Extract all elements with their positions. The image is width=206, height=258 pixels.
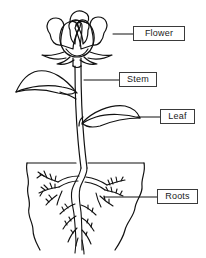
label-flower[interactable]: Flower — [133, 26, 185, 41]
plant-parts-diagram: Flower Stem Leaf Roots — [0, 0, 206, 258]
roots-drawing — [37, 168, 125, 254]
stem-drawing — [75, 66, 87, 168]
label-stem-text: Stem — [127, 75, 149, 84]
label-leaf[interactable]: Leaf — [160, 109, 195, 124]
label-roots[interactable]: Roots — [157, 189, 198, 204]
left-leaf-drawing — [16, 71, 77, 99]
flower-drawing — [42, 11, 112, 67]
leader-lines — [84, 34, 160, 197]
label-leaf-text: Leaf — [168, 112, 186, 121]
right-leaf-drawing — [79, 106, 140, 127]
label-roots-text: Roots — [165, 192, 190, 201]
label-flower-text: Flower — [145, 29, 173, 38]
label-stem[interactable]: Stem — [119, 72, 157, 87]
